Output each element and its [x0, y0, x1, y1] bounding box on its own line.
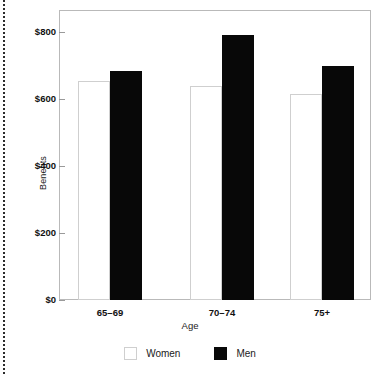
x-tick-label-75plus: 75+: [282, 307, 362, 318]
legend-label-men: Men: [236, 348, 255, 359]
bar-women-65-69[interactable]: [78, 81, 110, 300]
y-tick-label-200: $200: [35, 227, 56, 238]
bar-women-75plus[interactable]: [290, 94, 322, 300]
y-tick-mark-200: [59, 233, 65, 234]
y-axis-title: Benefits: [38, 128, 48, 218]
chart-legend: Women Men: [0, 347, 380, 360]
legend-swatch-women-icon: [124, 347, 137, 360]
y-tick-label-400: $400: [35, 160, 56, 171]
y-tick-mark-0: [59, 300, 65, 301]
bar-men-65-69[interactable]: [110, 71, 142, 300]
y-tick-mark-800: [59, 32, 65, 33]
y-tick-label-800: $800: [35, 26, 56, 37]
legend-item-women[interactable]: Women: [124, 347, 180, 360]
legend-swatch-men-icon: [214, 347, 227, 360]
bar-men-70-74[interactable]: [222, 35, 254, 300]
bar-chart-figure: Benefits $800 $600 $400 $200 $0 65–69 70…: [0, 0, 380, 376]
y-tick-mark-400: [59, 166, 65, 167]
x-axis-title: Age: [0, 320, 380, 331]
y-tick-label-0: $0: [45, 294, 56, 305]
y-tick-label-600: $600: [35, 93, 56, 104]
x-tick-label-70-74: 70–74: [182, 307, 262, 318]
legend-label-women: Women: [146, 348, 180, 359]
x-tick-label-65-69: 65–69: [70, 307, 150, 318]
bar-men-75plus[interactable]: [322, 66, 354, 301]
bar-women-70-74[interactable]: [190, 86, 222, 300]
legend-item-men[interactable]: Men: [214, 347, 255, 360]
y-tick-mark-600: [59, 99, 65, 100]
